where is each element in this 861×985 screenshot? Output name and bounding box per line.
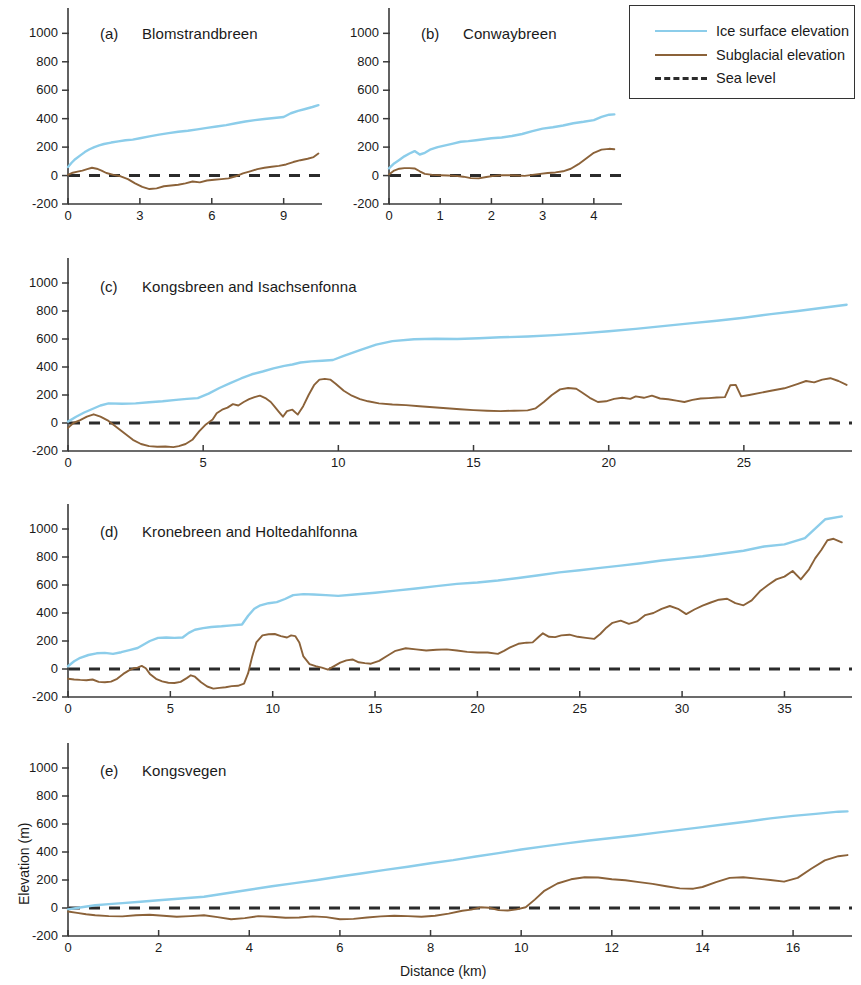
panel-d-title: Kronebreen and Holtedahlfonna — [142, 523, 358, 540]
legend-swatch-ice-surface-elevation — [655, 25, 707, 37]
legend-swatch-subglacial-elevation — [655, 49, 707, 61]
panel-e-title: Kongsvegen — [142, 762, 226, 779]
y-tick-label: 400 — [0, 359, 58, 374]
series-subglacial-elevation — [68, 539, 842, 689]
panel-e-tag: (e) — [100, 762, 118, 779]
x-tick-label: 12 — [592, 940, 632, 955]
legend-item-subglacial-elevation: Subglacial elevation — [655, 47, 845, 63]
y-tick-label: 800 — [0, 54, 379, 69]
x-tick-label: 10 — [253, 701, 293, 716]
y-tick-label: 600 — [0, 82, 379, 97]
y-tick-label: 200 — [0, 139, 379, 154]
x-axis-label: Distance (km) — [400, 963, 486, 979]
x-tick-label: 5 — [150, 701, 190, 716]
legend-swatch-sea-level — [655, 72, 707, 84]
y-tick-label: 200 — [0, 633, 58, 648]
x-tick-label: 15 — [355, 701, 395, 716]
y-tick-label: 200 — [0, 387, 58, 402]
panel-c-tag: (c) — [100, 278, 118, 295]
x-tick-label: 16 — [773, 940, 813, 955]
y-tick-label: 800 — [0, 549, 58, 564]
x-tick-label: 15 — [454, 455, 494, 470]
y-tick-label: 1000 — [0, 25, 379, 40]
panel-c-title: Kongsbreen and Isachsenfonna — [142, 278, 357, 295]
y-tick-label: 0 — [0, 661, 58, 676]
legend: Ice surface elevation Subglacial elevati… — [629, 5, 855, 99]
y-tick-label: 200 — [0, 872, 58, 887]
x-tick-label: 0 — [369, 208, 409, 223]
x-tick-label: 8 — [411, 940, 451, 955]
x-tick-label: 0 — [48, 940, 88, 955]
legend-item-ice-surface-elevation: Ice surface elevation — [655, 23, 849, 39]
y-tick-label: 400 — [0, 605, 58, 620]
series-ice-surface-elevation — [68, 811, 847, 909]
legend-label-subglacial-elevation: Subglacial elevation — [716, 47, 845, 63]
series-ice-surface-elevation — [68, 305, 847, 422]
y-tick-label: 600 — [0, 577, 58, 592]
y-tick-label: 600 — [0, 816, 58, 831]
x-tick-label: 10 — [318, 455, 358, 470]
series-ice-surface-elevation — [389, 114, 614, 168]
x-tick-label: 2 — [139, 940, 179, 955]
x-tick-label: 14 — [682, 940, 722, 955]
y-tick-label: 400 — [0, 844, 58, 859]
series-subglacial-elevation — [68, 855, 847, 919]
panel-b-title: Conwaybreen — [463, 25, 557, 42]
y-tick-label: 800 — [0, 303, 58, 318]
x-tick-label: 35 — [764, 701, 804, 716]
x-tick-label: 25 — [724, 455, 764, 470]
panel-b-tag: (b) — [421, 25, 439, 42]
y-tick-label: -200 — [0, 196, 379, 211]
glacier-profile-figure: Ice surface elevation Subglacial elevati… — [0, 0, 861, 985]
x-tick-label: 20 — [457, 701, 497, 716]
y-tick-label: 400 — [0, 111, 379, 126]
x-tick-label: 2 — [471, 208, 511, 223]
y-tick-label: 1000 — [0, 275, 58, 290]
x-tick-label: 6 — [320, 940, 360, 955]
y-tick-label: 0 — [0, 168, 379, 183]
y-tick-label: 1000 — [0, 521, 58, 536]
x-tick-label: 5 — [183, 455, 223, 470]
x-tick-label: 10 — [501, 940, 541, 955]
y-tick-label: 0 — [0, 900, 58, 915]
x-tick-label: 4 — [574, 208, 614, 223]
legend-label-ice-surface-elevation: Ice surface elevation — [716, 23, 849, 39]
x-tick-label: 3 — [523, 208, 563, 223]
x-tick-label: 0 — [48, 701, 88, 716]
x-tick-label: 20 — [589, 455, 629, 470]
y-tick-label: 600 — [0, 331, 58, 346]
y-tick-label: 800 — [0, 788, 58, 803]
panel-d-tag: (d) — [100, 523, 118, 540]
legend-label-sea-level: Sea level — [716, 70, 776, 86]
x-tick-label: 30 — [662, 701, 702, 716]
series-subglacial-elevation — [68, 378, 847, 447]
x-tick-label: 25 — [560, 701, 600, 716]
legend-item-sea-level: Sea level — [655, 70, 776, 86]
x-tick-label: 0 — [48, 455, 88, 470]
y-tick-label: 0 — [0, 415, 58, 430]
y-tick-label: 1000 — [0, 760, 58, 775]
x-tick-label: 1 — [420, 208, 460, 223]
x-tick-label: 4 — [229, 940, 269, 955]
y-axis-label: Elevation (m) — [16, 823, 32, 905]
